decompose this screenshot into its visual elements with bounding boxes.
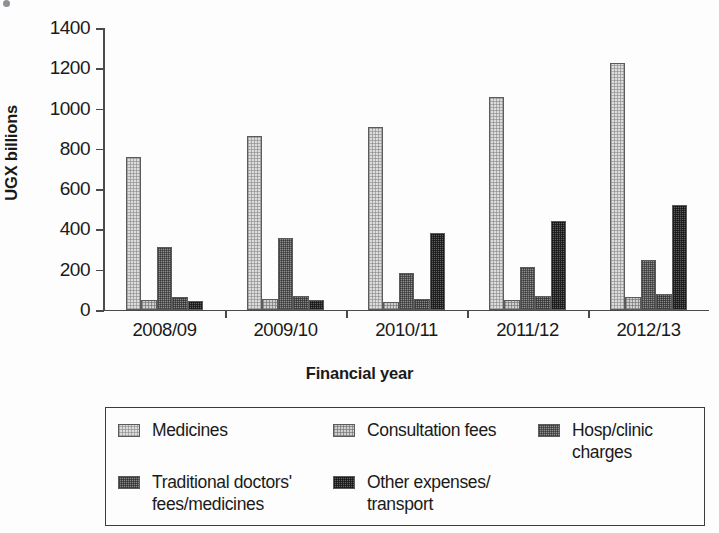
- figure-caption-strip: [0, 0, 719, 9]
- x-axis-tick-labels: 2008/092009/102010/112011/122012/13: [0, 9, 719, 329]
- legend-item-label: Consultation fees: [367, 419, 496, 441]
- legend-swatch-other-expenses-transport: [333, 476, 355, 489]
- legend-item[interactable]: Consultation fees: [333, 419, 533, 441]
- legend-item-label: Traditional doctors' fees/medicines: [152, 471, 292, 515]
- legend-item-label: Other expenses/ transport: [367, 471, 490, 515]
- legend-swatch-medicines: [118, 424, 140, 437]
- legend-item-label: Medicines: [152, 419, 228, 441]
- x-axis-tick-label: 2011/12: [467, 320, 588, 340]
- legend-item[interactable]: Traditional doctors' fees/medicines: [118, 471, 333, 515]
- legend-swatch-traditional-doctors-fees: [118, 476, 140, 489]
- legend-row: Traditional doctors' fees/medicinesOther…: [106, 471, 704, 523]
- legend-item-label: Hosp/clinic charges: [572, 419, 653, 463]
- legend-item[interactable]: Other expenses/ transport: [333, 471, 533, 515]
- chart-page: UGX billions 1400120010008006004002000 2…: [0, 0, 719, 533]
- legend-row: MedicinesConsultation feesHosp/clinic ch…: [106, 419, 704, 471]
- legend-swatch-hosp-clinic-charges: [538, 424, 560, 437]
- x-axis-tick-label: 2010/11: [346, 320, 467, 340]
- x-axis-tick-label: 2009/10: [225, 320, 346, 340]
- x-axis-title: Financial year: [0, 364, 719, 383]
- legend: MedicinesConsultation feesHosp/clinic ch…: [105, 407, 705, 526]
- legend-item[interactable]: Medicines: [118, 419, 333, 441]
- legend-swatch-consultation-fees: [333, 424, 355, 437]
- x-axis-tick-label: 2012/13: [588, 320, 709, 340]
- plot-area: UGX billions 1400120010008006004002000 2…: [0, 9, 719, 329]
- x-axis-tick-label: 2008/09: [104, 320, 225, 340]
- legend-item[interactable]: Hosp/clinic charges: [538, 419, 698, 463]
